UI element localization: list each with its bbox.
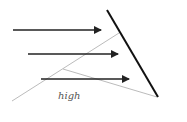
high-label: high (58, 90, 80, 101)
thin-lines (12, 33, 157, 101)
diagram-canvas (0, 0, 187, 122)
